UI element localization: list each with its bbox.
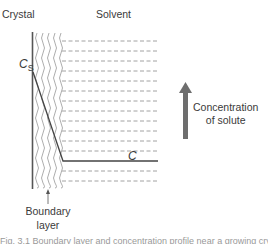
figure-caption-partial: Fig. 3.1 Boundary layer and concentratio…: [0, 236, 268, 244]
cs-subscript: S: [28, 63, 34, 73]
concentration-axis-label: Concentration of solute: [193, 101, 258, 127]
boundary-layer-label: Boundary layer: [24, 204, 72, 232]
concentration-arrow-icon: [179, 82, 192, 139]
bulk-concentration-label: C: [128, 149, 137, 163]
boundary-layer-label-line2: layer: [24, 218, 72, 232]
concentration-axis-label-line1: Concentration: [193, 101, 258, 114]
cs-symbol: C: [19, 57, 28, 71]
concentration-axis-label-line2: of solute: [193, 114, 258, 127]
boundary-layer-wavy-lines: [36, 33, 63, 188]
surface-concentration-label: CS: [19, 57, 34, 71]
solvent-dashed-lines: [62, 41, 158, 181]
concentration-profile-curve: [33, 72, 158, 161]
boundary-layer-pointer-icon: [46, 189, 50, 204]
boundary-layer-label-line1: Boundary: [24, 204, 72, 218]
